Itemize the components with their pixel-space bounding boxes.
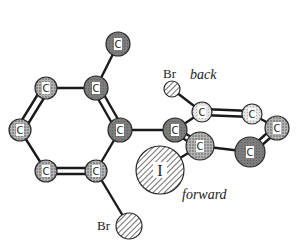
br-top-label: Br [163, 66, 177, 81]
back-label: back [190, 67, 217, 82]
atom-c-ring1-e: C [35, 160, 57, 182]
atom-c-ring2-e: C [235, 137, 265, 167]
svg-text:C: C [43, 166, 50, 177]
br-bottom-label: Br [97, 218, 111, 233]
forward-label: forward [182, 187, 228, 202]
molecule-diagram: C C C C C I C C C [0, 0, 308, 249]
atom-c-methyl: C [106, 32, 130, 56]
svg-text:C: C [199, 107, 206, 118]
svg-text:C: C [172, 125, 179, 136]
atom-br-top [164, 81, 180, 97]
atom-c-ring1-a: C [35, 77, 57, 99]
atom-br-bottom [116, 213, 142, 239]
svg-text:C: C [17, 125, 24, 136]
iodine-label: I [157, 162, 162, 179]
svg-text:C: C [93, 166, 100, 177]
atom-c-ring1-b: C [84, 76, 108, 100]
atom-iodine: I [136, 146, 184, 194]
atom-c-ring2-a: C [163, 118, 187, 142]
atom-c-ring1-c: C [108, 118, 132, 142]
atom-c-ring2-b: C [192, 102, 212, 122]
svg-text:C: C [274, 123, 281, 134]
svg-text:C: C [117, 125, 124, 136]
svg-text:C: C [197, 141, 204, 152]
atom-c-ring2-f: C [186, 132, 214, 160]
svg-text:C: C [93, 83, 100, 94]
svg-text:C: C [247, 147, 254, 158]
atom-c-ring1-f: C [9, 119, 31, 141]
svg-text:C: C [43, 83, 50, 94]
bonds [17, 44, 279, 226]
svg-text:C: C [249, 109, 256, 120]
atom-c-ring2-d: C [265, 116, 289, 140]
svg-text:C: C [115, 39, 122, 50]
atom-c-ring1-d: C [85, 160, 107, 182]
atom-c-ring2-c: C [242, 104, 262, 124]
